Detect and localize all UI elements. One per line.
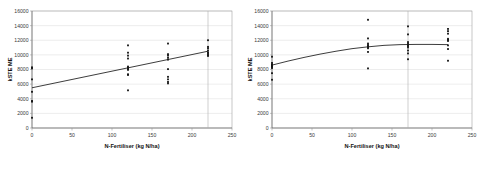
data-point	[367, 19, 369, 21]
data-point	[127, 89, 129, 91]
data-point	[127, 58, 129, 60]
data-point	[167, 76, 169, 78]
data-point	[167, 43, 169, 45]
x-tick-label: 250	[228, 132, 237, 138]
chart-left-svg: 0200040006000800010000120001400016000050…	[0, 0, 240, 170]
y-tick-label: 6000	[17, 81, 28, 87]
data-point	[167, 57, 169, 59]
data-point	[447, 30, 449, 32]
data-point	[271, 72, 273, 74]
data-point	[167, 68, 169, 70]
x-tick-label: 150	[388, 132, 397, 138]
data-point	[31, 117, 33, 119]
data-point	[447, 60, 449, 62]
data-point	[447, 40, 449, 42]
data-point	[31, 101, 33, 103]
y-tick-label: 10000	[14, 52, 28, 58]
data-point	[207, 55, 209, 57]
y-tick-label: 0	[266, 125, 269, 131]
data-point	[167, 82, 169, 84]
data-point	[127, 55, 129, 57]
x-tick-label: 150	[148, 132, 157, 138]
data-point	[31, 91, 33, 93]
y-tick-label: 12000	[254, 37, 268, 43]
data-point	[127, 44, 129, 46]
x-tick-label: 200	[428, 132, 437, 138]
data-point	[127, 74, 129, 76]
data-point	[407, 53, 409, 55]
data-point	[447, 28, 449, 30]
chart-left-linear: 0200040006000800010000120001400016000050…	[0, 0, 240, 170]
y-tick-label: 8000	[257, 66, 268, 72]
data-point	[407, 50, 409, 52]
data-point	[167, 55, 169, 57]
y-tick-label: 6000	[257, 81, 268, 87]
data-point	[31, 68, 33, 70]
figure-container: 0200040006000800010000120001400016000050…	[0, 0, 480, 170]
data-point	[167, 78, 169, 80]
y-tick-label: 0	[26, 125, 29, 131]
y-axis-title: kSTE ME	[7, 57, 13, 81]
data-point	[207, 47, 209, 49]
x-axis-title: N-Fertiliser (kg N/ha)	[104, 143, 159, 149]
data-point	[447, 33, 449, 35]
data-point	[407, 58, 409, 60]
data-point	[407, 47, 409, 49]
data-point	[447, 48, 449, 50]
y-tick-label: 2000	[17, 110, 28, 116]
data-point	[271, 56, 273, 58]
chart-right-svg: 0200040006000800010000120001400016000050…	[240, 0, 480, 170]
data-point	[271, 79, 273, 81]
data-point	[407, 25, 409, 27]
y-tick-label: 16000	[14, 8, 28, 14]
x-tick-label: 0	[31, 132, 34, 138]
y-tick-label: 14000	[254, 23, 268, 29]
y-axis-title: kSTE ME	[247, 57, 253, 81]
data-point	[31, 78, 33, 80]
data-point	[271, 67, 273, 69]
data-point	[207, 39, 209, 41]
data-point	[127, 69, 129, 71]
y-tick-label: 2000	[257, 110, 268, 116]
y-tick-label: 10000	[254, 52, 268, 58]
x-tick-label: 50	[69, 132, 75, 138]
y-tick-label: 14000	[14, 23, 28, 29]
data-point	[367, 51, 369, 53]
data-point	[367, 47, 369, 49]
x-tick-label: 50	[309, 132, 315, 138]
y-tick-label: 16000	[254, 8, 268, 14]
y-tick-label: 4000	[17, 96, 28, 102]
x-axis-title: N-Fertiliser (kg N/ha)	[344, 143, 399, 149]
right-plot: 0200040006000800010000120001400016000050…	[247, 8, 476, 149]
data-point	[407, 34, 409, 36]
x-tick-label: 100	[108, 132, 117, 138]
left-plot: 0200040006000800010000120001400016000050…	[7, 8, 236, 149]
x-tick-label: 0	[271, 132, 274, 138]
data-point	[127, 52, 129, 54]
chart-right-quadratic: 0200040006000800010000120001400016000050…	[240, 0, 480, 170]
y-tick-label: 8000	[17, 66, 28, 72]
y-tick-label: 12000	[14, 37, 28, 43]
x-tick-label: 200	[188, 132, 197, 138]
x-tick-label: 250	[468, 132, 477, 138]
y-tick-label: 4000	[257, 96, 268, 102]
data-point	[407, 41, 409, 43]
x-tick-label: 100	[348, 132, 357, 138]
data-point	[367, 38, 369, 40]
data-point	[367, 68, 369, 70]
